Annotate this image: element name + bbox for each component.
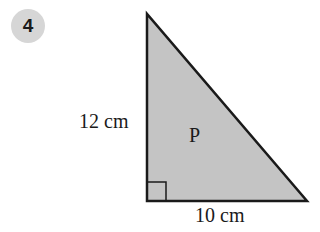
horizontal-side-label: 10 cm bbox=[195, 204, 244, 227]
vertical-side-label: 12 cm bbox=[79, 110, 128, 133]
triangle-p bbox=[147, 14, 307, 201]
right-triangle-diagram bbox=[0, 0, 320, 232]
region-label: P bbox=[189, 124, 200, 147]
